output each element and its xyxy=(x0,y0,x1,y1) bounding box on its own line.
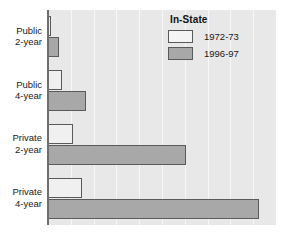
legend-swatch-old-icon xyxy=(168,30,193,43)
category-label-line1: Public xyxy=(15,25,42,37)
bar-private-2-year-1972-73 xyxy=(48,124,73,144)
category-label-line1: Public xyxy=(15,79,42,91)
legend-swatch-new-icon xyxy=(168,47,193,60)
category-label-4: Private4-year xyxy=(12,186,42,209)
bar-private-2-year-1996-97 xyxy=(48,145,186,165)
legend-title: In-State xyxy=(170,14,272,25)
bar-private-4-year-1972-73 xyxy=(48,178,82,198)
bar-private-4-year-1996-97 xyxy=(48,199,259,219)
category-label-line2: 4-year xyxy=(15,90,42,102)
bar-public-4-year-1996-97 xyxy=(48,91,86,111)
category-label-line2: 2-year xyxy=(12,144,42,156)
category-label-3: Private2-year xyxy=(12,132,42,155)
category-label-line1: Private xyxy=(12,132,42,144)
category-label-1: Public2-year xyxy=(15,25,42,48)
bar-chart-figure: Public2-yearPublic4-yearPrivate2-yearPri… xyxy=(0,0,289,237)
category-label-line1: Private xyxy=(12,186,42,198)
y-axis-line xyxy=(47,10,49,225)
category-axis-labels: Public2-yearPublic4-yearPrivate2-yearPri… xyxy=(0,10,45,225)
bar-public-2-year-1996-97 xyxy=(48,37,59,57)
category-label-line2: 2-year xyxy=(15,36,42,48)
legend: In-State 1972-73 1996-97 xyxy=(168,14,272,64)
category-label-line2: 4-year xyxy=(12,198,42,210)
legend-label-1972-73: 1972-73 xyxy=(204,31,239,42)
bar-public-4-year-1972-73 xyxy=(48,70,62,90)
legend-label-1996-97: 1996-97 xyxy=(204,48,239,59)
legend-item-1972-73: 1972-73 xyxy=(168,30,272,43)
legend-item-1996-97: 1996-97 xyxy=(168,47,272,60)
category-label-2: Public4-year xyxy=(15,79,42,102)
